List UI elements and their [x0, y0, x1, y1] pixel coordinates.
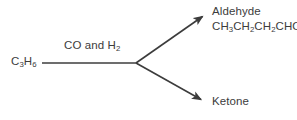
formula-segment-ch3: CH: [212, 20, 229, 32]
formula-subscript-2-b: 2: [271, 25, 275, 34]
reagent-subscript-2: 2: [116, 44, 120, 53]
formula-segment-ch2-a: CH: [233, 20, 250, 32]
reactant-subscript-3: 3: [19, 60, 23, 69]
product-label-aldehyde: Aldehyde: [212, 5, 261, 18]
product-label-ketone: Ketone: [212, 95, 249, 108]
formula-subscript-2-a: 2: [250, 25, 254, 34]
reaction-scheme-diagram: C3H6 CO and H2 Aldehyde CH3CH2CH2CHO Ket…: [0, 0, 297, 120]
reaction-arrow-to-aldehyde: [136, 17, 203, 64]
product-formula-butanal: CH3CH2CH2CHO: [212, 20, 297, 33]
reactant-formula-propene: C3H6: [11, 55, 37, 68]
formula-segment-cho: CHO: [276, 20, 297, 32]
reactant-element-h: H: [24, 55, 32, 67]
reaction-arrow-to-ketone: [136, 63, 201, 100]
reagent-text: CO and H: [64, 39, 116, 51]
reaction-arrows-graphic: [0, 0, 297, 120]
reagent-label-co-and-h2: CO and H2: [64, 39, 120, 52]
formula-segment-ch2-b: CH: [254, 20, 271, 32]
reactant-subscript-6: 6: [32, 60, 36, 69]
formula-subscript-3: 3: [229, 25, 233, 34]
